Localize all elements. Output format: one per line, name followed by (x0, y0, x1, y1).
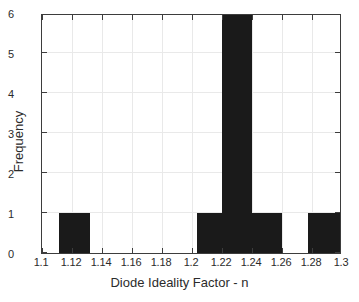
x-tick-mark-top (102, 248, 103, 253)
y-tick-mark (42, 252, 47, 253)
histogram-bar (222, 14, 252, 253)
x-tick-mark-top (282, 248, 283, 253)
grid-line-vertical (132, 15, 133, 253)
x-tick-mark-top (192, 248, 193, 253)
y-tick-mark-right (335, 212, 340, 213)
grid-line-vertical (102, 15, 103, 253)
y-tick-mark (42, 132, 47, 133)
grid-line-vertical (192, 15, 193, 253)
x-tick-label: 1.22 (211, 256, 232, 268)
x-tick-label: 1.2 (184, 256, 199, 268)
y-tick-mark (42, 52, 47, 53)
x-tick-mark (252, 15, 253, 20)
y-tick-label: 5 (8, 48, 14, 60)
x-tick-mark-top (72, 248, 73, 253)
y-tick-label: 6 (8, 8, 14, 20)
grid-line-horizontal (42, 172, 340, 173)
x-tick-label: 1.18 (151, 256, 172, 268)
grid-line-horizontal (42, 132, 340, 133)
histogram-bar (252, 213, 282, 253)
plot-area (41, 14, 341, 254)
x-tick-mark (162, 15, 163, 20)
x-tick-mark-top (252, 248, 253, 253)
x-tick-mark (222, 15, 223, 20)
y-tick-mark (42, 212, 47, 213)
x-tick-mark-top (162, 248, 163, 253)
x-tick-label: 1.14 (91, 256, 112, 268)
x-axis-label: Diode Ideality Factor - n (0, 275, 359, 290)
y-tick-mark-right (335, 52, 340, 53)
y-tick-label: 1 (8, 208, 14, 220)
x-tick-mark-top (132, 248, 133, 253)
x-tick-mark (42, 15, 43, 20)
histogram-bar (308, 213, 341, 253)
y-tick-mark (42, 92, 47, 93)
x-tick-mark (282, 15, 283, 20)
x-tick-label: 1.28 (301, 256, 322, 268)
x-tick-label: 1.3 (334, 256, 349, 268)
grid-line-horizontal (42, 52, 340, 53)
x-tick-mark (312, 15, 313, 20)
grid-line-horizontal (42, 92, 340, 93)
x-tick-label: 1.12 (61, 256, 82, 268)
y-tick-mark-right (335, 132, 340, 133)
x-tick-mark-top (222, 248, 223, 253)
grid-line-vertical (282, 15, 283, 253)
x-tick-label: 1.16 (121, 256, 142, 268)
x-tick-mark (102, 15, 103, 20)
x-tick-label: 1.26 (271, 256, 292, 268)
grid-line-vertical (162, 15, 163, 253)
x-tick-mark-top (312, 248, 313, 253)
x-tick-label: 1.24 (241, 256, 262, 268)
histogram-bar (197, 213, 222, 253)
y-tick-mark (42, 172, 47, 173)
y-tick-mark-right (335, 92, 340, 93)
x-tick-mark (72, 15, 73, 20)
y-tick-mark-right (335, 172, 340, 173)
y-tick-mark-right (335, 252, 340, 253)
y-tick-label: 0 (8, 248, 14, 260)
x-tick-mark (132, 15, 133, 20)
histogram-bar (59, 213, 90, 253)
x-tick-label: 1.1 (34, 256, 49, 268)
y-axis-label: Frequency (11, 82, 26, 202)
histogram-figure: 1.11.121.141.161.181.21.221.241.261.281.… (0, 0, 359, 302)
x-tick-mark (192, 15, 193, 20)
